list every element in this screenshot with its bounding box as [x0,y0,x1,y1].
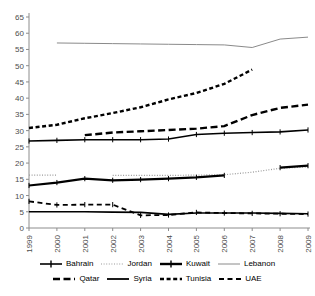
legend-swatch-lebanon [218,259,240,269]
y-tick-label: 0 [20,224,25,233]
legend-label: Kuwait [186,259,210,269]
y-tick-label: 55 [15,45,24,54]
y-tick-label: 50 [15,62,24,71]
y-tick-label: 65 [15,13,24,22]
legend-item-jordan[interactable]: Jordan [101,259,151,269]
legend-swatch-tunisia [160,274,182,284]
series-jordan [29,167,308,175]
legend-swatch-syria [107,274,129,284]
x-tick-label: 2007 [248,234,257,252]
legend-item-syria[interactable]: Syria [107,274,151,284]
legend-label: Lebanon [244,259,275,269]
legend-swatch-bahrain [40,259,62,269]
legend-label: Qatar [79,274,99,284]
legend-swatch-uae [219,274,241,284]
x-tick-label: 2003 [137,234,146,252]
legend-row-2: QatarSyriaTunisiaUAE [0,271,315,286]
y-tick-label: 35 [15,110,24,119]
series-uae [29,199,308,218]
series-line [57,37,308,47]
series-kuwait [29,163,308,188]
y-tick-label: 60 [15,29,24,38]
legend-swatch-jordan [101,259,123,269]
x-tick-label: 2008 [276,234,285,252]
y-tick-label: 20 [15,159,24,168]
x-tick-label: 2009 [304,234,313,252]
legend-swatch-qatar [53,274,75,284]
x-tick-label: 2001 [81,234,90,252]
y-tick-label: 40 [15,94,24,103]
series-line [29,70,252,128]
series-bahrain [29,127,308,143]
plot-area: 0510152025303540455055606519992000200120… [0,0,315,296]
legend-label: Bahrain [66,259,94,269]
y-tick-label: 25 [15,143,24,152]
series-tunisia [29,70,252,128]
x-tick-label: 2005 [192,234,201,252]
line-chart: 0510152025303540455055606519992000200120… [0,0,315,296]
legend-label: UAE [245,274,261,284]
y-tick-label: 45 [15,78,24,87]
legend-label: Tunisia [186,274,212,284]
x-tick-label: 1999 [25,234,34,252]
legend-item-qatar[interactable]: Qatar [53,274,99,284]
x-tick-label: 2004 [165,234,174,252]
legend-label: Syria [133,274,151,284]
series-line [85,105,308,136]
y-tick-label: 15 [15,175,24,184]
chart-legend: BahrainJordanKuwaitLebanon QatarSyriaTun… [0,256,315,286]
series-lebanon [57,37,308,47]
series-line [113,167,308,175]
legend-item-uae[interactable]: UAE [219,274,261,284]
legend-item-kuwait[interactable]: Kuwait [160,259,210,269]
legend-item-lebanon[interactable]: Lebanon [218,259,275,269]
x-tick-label: 2006 [220,234,229,252]
legend-row-1: BahrainJordanKuwaitLebanon [0,256,315,271]
y-tick-label: 10 [15,192,24,201]
x-tick-label: 2002 [109,234,118,252]
series-line [29,175,224,185]
legend-label: Jordan [127,259,151,269]
y-tick-label: 5 [20,208,25,217]
y-tick-label: 30 [15,127,24,136]
legend-item-tunisia[interactable]: Tunisia [160,274,212,284]
x-tick-label: 2000 [53,234,62,252]
series-qatar [85,105,308,136]
legend-swatch-kuwait [160,259,182,269]
legend-item-bahrain[interactable]: Bahrain [40,259,94,269]
series-line [280,166,308,168]
